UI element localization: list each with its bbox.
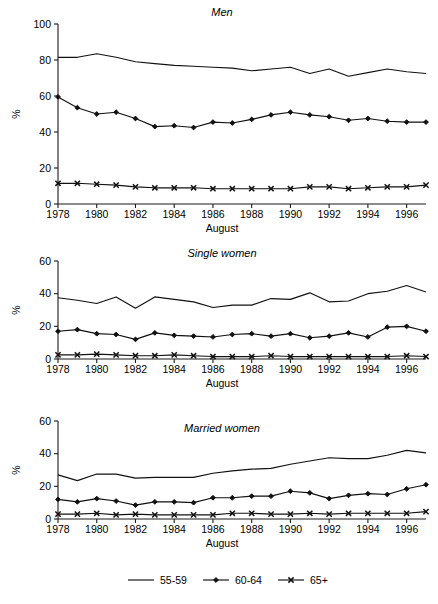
- x-tick-label: 1992: [317, 523, 341, 535]
- data-point-marker-diamond: [152, 499, 157, 504]
- data-point-marker-diamond: [152, 330, 157, 335]
- series-line-55-59: [58, 54, 426, 76]
- x-tick-label: 1996: [395, 523, 419, 535]
- data-point-marker-diamond: [404, 324, 409, 329]
- data-point-marker-diamond: [211, 495, 216, 500]
- data-point-marker-diamond: [56, 497, 61, 502]
- x-tick-label: 1996: [395, 208, 419, 220]
- data-point-marker-diamond: [385, 492, 390, 497]
- data-point-marker-diamond: [75, 327, 80, 332]
- x-tick-label: 1990: [279, 523, 303, 535]
- x-tick-label: 1992: [317, 363, 341, 375]
- data-point-marker-diamond: [249, 494, 254, 499]
- data-point-marker-diamond: [94, 496, 99, 501]
- data-point-marker-diamond: [211, 335, 216, 340]
- y-axis-label: %: [10, 305, 22, 314]
- y-tick-label: 80: [39, 54, 51, 66]
- data-point-marker-diamond: [133, 116, 138, 121]
- data-point-marker-diamond: [172, 123, 177, 128]
- data-point-marker-diamond: [211, 120, 216, 125]
- chart-svg-single-women: Single women0204060197819801982198419861…: [0, 245, 438, 400]
- y-axis-label: %: [10, 465, 22, 474]
- legend-svg: 55-5960-6465+: [0, 566, 438, 596]
- chart-title-2: Married women: [184, 422, 260, 434]
- data-point-marker-diamond: [230, 495, 235, 500]
- data-point-marker-diamond: [114, 332, 119, 337]
- data-point-marker-diamond: [307, 335, 312, 340]
- data-point-marker-diamond: [152, 124, 157, 129]
- data-point-marker-diamond: [172, 333, 177, 338]
- y-tick-label: 20: [39, 480, 51, 492]
- data-point-marker-diamond: [385, 119, 390, 124]
- data-point-marker-diamond: [75, 499, 80, 504]
- chart-title-1: Single women: [187, 247, 256, 259]
- data-point-marker-diamond: [191, 125, 196, 130]
- x-axis-label: August: [206, 377, 239, 389]
- data-point-marker-diamond: [327, 496, 332, 501]
- data-point-marker-diamond: [133, 503, 138, 508]
- data-point-marker-diamond: [288, 489, 293, 494]
- figure-employment-rates-by-age: Men0204060801001978198019821984198619881…: [0, 0, 438, 604]
- legend-marker-diamond: [214, 578, 219, 583]
- data-point-marker-diamond: [269, 334, 274, 339]
- data-point-marker-diamond: [385, 325, 390, 330]
- data-point-marker-diamond: [269, 494, 274, 499]
- data-point-marker-diamond: [56, 95, 61, 100]
- y-tick-label: 100: [33, 18, 51, 30]
- data-point-marker-diamond: [424, 329, 429, 334]
- series-line-65+: [58, 512, 426, 515]
- data-point-marker-diamond: [114, 499, 119, 504]
- x-tick-label: 1992: [317, 208, 341, 220]
- data-point-marker-diamond: [94, 112, 99, 117]
- x-tick-label: 1980: [85, 523, 109, 535]
- x-tick-label: 1982: [124, 523, 148, 535]
- x-tick-label: 1978: [46, 208, 70, 220]
- data-point-marker-diamond: [365, 335, 370, 340]
- x-tick-label: 1984: [163, 208, 187, 220]
- x-tick-label: 1978: [46, 363, 70, 375]
- x-tick-label: 1986: [201, 523, 225, 535]
- y-tick-label: 60: [39, 90, 51, 102]
- series-line-65+: [58, 183, 426, 188]
- data-point-marker-diamond: [191, 334, 196, 339]
- y-tick-label: 60: [39, 255, 51, 267]
- data-point-marker-diamond: [307, 490, 312, 495]
- chart-svg-men: Men0204060801001978198019821984198619881…: [0, 0, 438, 245]
- x-tick-label: 1988: [240, 363, 264, 375]
- data-point-marker-diamond: [230, 121, 235, 126]
- chart-legend: 55-5960-6465+: [0, 566, 438, 596]
- data-point-marker-diamond: [365, 116, 370, 121]
- chart-panel-men: Men0204060801001978198019821984198619881…: [0, 0, 438, 245]
- data-point-marker-diamond: [346, 493, 351, 498]
- data-point-marker-diamond: [346, 118, 351, 123]
- data-point-marker-diamond: [327, 334, 332, 339]
- y-tick-label: 60: [39, 415, 51, 427]
- data-point-marker-diamond: [424, 120, 429, 125]
- data-point-marker-diamond: [172, 499, 177, 504]
- x-axis-label: August: [206, 537, 239, 549]
- data-point-marker-diamond: [404, 486, 409, 491]
- y-tick-label: 40: [39, 447, 51, 459]
- x-tick-label: 1984: [163, 363, 187, 375]
- y-tick-label: 40: [39, 287, 51, 299]
- data-point-marker-diamond: [288, 110, 293, 115]
- x-tick-label: 1986: [201, 208, 225, 220]
- data-point-marker-diamond: [346, 330, 351, 335]
- data-point-marker-diamond: [365, 491, 370, 496]
- series-line-60-64: [58, 326, 426, 339]
- x-tick-label: 1980: [85, 363, 109, 375]
- x-tick-label: 1990: [279, 363, 303, 375]
- x-tick-label: 1978: [46, 523, 70, 535]
- x-tick-label: 1994: [356, 523, 380, 535]
- data-point-marker-diamond: [94, 331, 99, 336]
- x-tick-label: 1986: [201, 363, 225, 375]
- chart-title-0: Men: [211, 6, 232, 18]
- x-tick-label: 1994: [356, 208, 380, 220]
- y-tick-label: 40: [39, 126, 51, 138]
- data-point-marker-diamond: [288, 331, 293, 336]
- series-line-60-64: [58, 485, 426, 505]
- data-point-marker-diamond: [191, 500, 196, 505]
- chart-panel-single-women: Single women0204060197819801982198419861…: [0, 245, 438, 400]
- data-point-marker-diamond: [249, 331, 254, 336]
- x-tick-label: 1982: [124, 363, 148, 375]
